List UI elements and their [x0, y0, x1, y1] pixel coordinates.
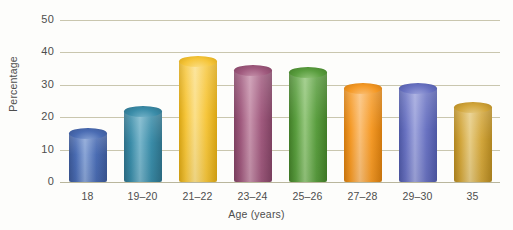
x-tick-label: 29–30: [390, 190, 445, 202]
gridline-0: [60, 182, 500, 183]
bar-21–22: [179, 61, 217, 183]
x-tick-label: 27–28: [335, 190, 390, 202]
bar-body: [69, 133, 107, 182]
y-tick-label: 50: [28, 14, 54, 25]
y-axis-title: Percentage: [7, 44, 19, 124]
x-tick-label: 35: [445, 190, 500, 202]
y-tick-label: 30: [28, 79, 54, 90]
bar-25–26: [289, 72, 327, 182]
bar-chart: Percentage 01020304050 1819–2021–2223–24…: [0, 0, 513, 230]
bar-23–24: [234, 70, 272, 182]
x-tick-label: 25–26: [280, 190, 335, 202]
x-tick-label: 18: [60, 190, 115, 202]
bar-cap: [179, 56, 217, 67]
bar-body: [344, 88, 382, 182]
bar-18: [69, 133, 107, 182]
bar-body: [179, 61, 217, 183]
bar-body: [124, 111, 162, 182]
bar-27–28: [344, 88, 382, 182]
bar-body: [234, 70, 272, 182]
bar-body: [289, 72, 327, 182]
bar-19–20: [124, 111, 162, 182]
bar-cap: [399, 83, 437, 94]
gridline-40: [60, 52, 500, 53]
y-tick-label: 40: [28, 46, 54, 57]
bar-35: [454, 107, 492, 182]
x-tick-label: 23–24: [225, 190, 280, 202]
x-tick-label: 19–20: [115, 190, 170, 202]
gridline-50: [60, 20, 500, 21]
y-tick-label: 20: [28, 111, 54, 122]
x-tick-label: 21–22: [170, 190, 225, 202]
bar-29–30: [399, 88, 437, 182]
bar-cap: [289, 67, 327, 78]
y-tick-label: 0: [28, 176, 54, 187]
bar-body: [454, 107, 492, 182]
bar-cap: [124, 106, 162, 117]
x-axis-title: Age (years): [0, 208, 513, 220]
y-axis-tick-labels: 01020304050: [22, 0, 54, 230]
bar-body: [399, 88, 437, 182]
plot-area: [60, 20, 500, 182]
bar-cap: [344, 83, 382, 94]
y-tick-label: 10: [28, 144, 54, 155]
